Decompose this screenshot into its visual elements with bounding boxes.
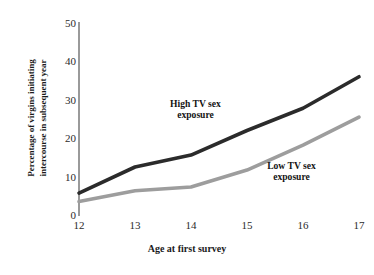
- x-tick-label: 17: [344, 219, 374, 231]
- x-tick-label: 16: [288, 219, 318, 231]
- y-axis-title-line-1: Percentage of virgins initiating: [26, 59, 38, 176]
- y-tick-label: 10: [54, 171, 76, 183]
- annotation-low-line-2: exposure: [244, 171, 339, 182]
- line-chart: Percentage of virgins initiating interco…: [0, 0, 374, 275]
- y-tick-label: 20: [54, 132, 76, 144]
- x-tick-label: 13: [120, 219, 150, 231]
- annotation-low-line-1: Low TV sex: [244, 160, 339, 171]
- y-tick-label: 30: [54, 94, 76, 106]
- x-axis-title: Age at first survey: [0, 243, 374, 254]
- x-tick-label: 12: [64, 219, 94, 231]
- y-tick-label: 40: [54, 55, 76, 67]
- x-axis-tick-labels: 12 13 14 15 16 17: [0, 219, 374, 235]
- annotation-high-line-1: High TV sex: [143, 98, 248, 109]
- annotation-low-tv-sex-exposure: Low TV sex exposure: [244, 160, 339, 182]
- y-axis-title-line-2: intercourse in subsequent year: [37, 59, 49, 176]
- x-tick-label: 14: [176, 219, 206, 231]
- x-tick-label: 15: [232, 219, 262, 231]
- annotation-high-line-2: exposure: [143, 109, 248, 120]
- y-axis-title: Percentage of virgins initiating interco…: [20, 20, 54, 216]
- y-tick-label: 50: [54, 17, 76, 29]
- annotation-high-tv-sex-exposure: High TV sex exposure: [143, 98, 248, 120]
